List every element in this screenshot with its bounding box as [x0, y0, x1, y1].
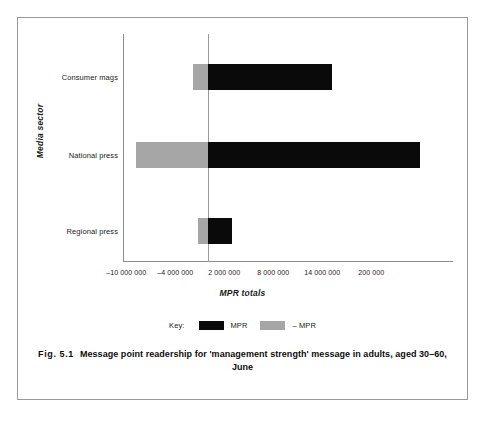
mpr-swatch-icon: [199, 321, 224, 330]
x-axis-tick-label: 2 000 000: [208, 269, 240, 276]
plot-area: Media sector Consumer magsNational press…: [18, 18, 467, 268]
x-axis-tick-label: 200 000: [358, 269, 384, 276]
bar-segment-negative-mpr: [136, 142, 208, 168]
legend-key-word: Key:: [169, 321, 184, 330]
figure-caption-text: Message point readership for 'management…: [80, 349, 447, 372]
legend-label-mpr: MPR: [231, 321, 248, 330]
negative-mpr-swatch-icon: [260, 321, 285, 330]
x-axis-title: MPR totals: [18, 288, 467, 298]
x-axis-line: [123, 261, 453, 262]
figure-caption: Fig. 5.1Message point readership for 'ma…: [32, 348, 453, 373]
x-axis-tick-label: –4 000 000: [157, 269, 193, 276]
legend-item-negative-mpr: – MPR: [260, 321, 315, 330]
figure-number: Fig. 5.1: [38, 349, 74, 359]
legend-item-mpr: MPR: [199, 321, 248, 330]
x-axis-tick-label: 8 000 000: [257, 269, 289, 276]
bar-segment-negative-mpr: [198, 218, 208, 244]
bar-segment-mpr: [208, 64, 332, 90]
bar-segment-negative-mpr: [193, 64, 208, 90]
chart-legend: Key: MPR – MPR: [18, 321, 467, 330]
bar-row: [18, 64, 467, 90]
x-axis-tick-group: –10 000 000–4 000 0002 000 0008 000 0001…: [18, 269, 467, 283]
x-axis-tick-label: 14 000 000: [304, 269, 340, 276]
bar-segment-mpr: [208, 218, 232, 244]
bar-row: [18, 142, 467, 168]
legend-label-negative-mpr: – MPR: [292, 321, 315, 330]
figure-container: Media sector Consumer magsNational press…: [17, 17, 468, 400]
bar-row: [18, 218, 467, 244]
x-axis-tick-label: –10 000 000: [106, 269, 146, 276]
bar-segment-mpr: [208, 142, 420, 168]
